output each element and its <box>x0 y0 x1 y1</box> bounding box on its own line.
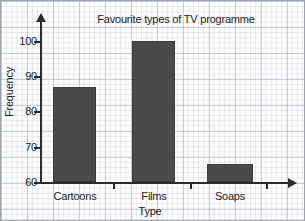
x-axis-line <box>40 182 292 184</box>
y-axis-line <box>40 20 42 184</box>
x-label-soaps: Soaps <box>194 190 266 202</box>
x-label-films: Films <box>118 190 190 202</box>
y-tick-label-100: 100 <box>7 35 37 47</box>
x-label-cartoons: Cartoons <box>39 190 111 202</box>
bar-soaps <box>207 164 253 182</box>
arrow-up-icon <box>36 13 46 22</box>
plot-area: Favourite types of TV programme Frequenc… <box>0 0 305 221</box>
y-tick-label-60: 60 <box>7 176 37 188</box>
x-tick-3 <box>266 182 268 189</box>
y-tick-label-80: 80 <box>7 105 37 117</box>
chart-title: Favourite types of TV programme <box>78 13 274 25</box>
bar-chart-figure: Favourite types of TV programme Frequenc… <box>0 0 305 221</box>
arrow-right-icon <box>288 178 297 188</box>
y-tick-label-70: 70 <box>7 141 37 153</box>
x-tick-2 <box>190 182 192 189</box>
y-axis-title: Frequency <box>3 54 15 130</box>
x-axis-title: Type <box>110 205 190 217</box>
y-tick-label-90: 90 <box>7 70 37 82</box>
bar-films <box>132 41 175 182</box>
bar-cartoons <box>53 87 96 182</box>
x-tick-1 <box>113 182 115 189</box>
